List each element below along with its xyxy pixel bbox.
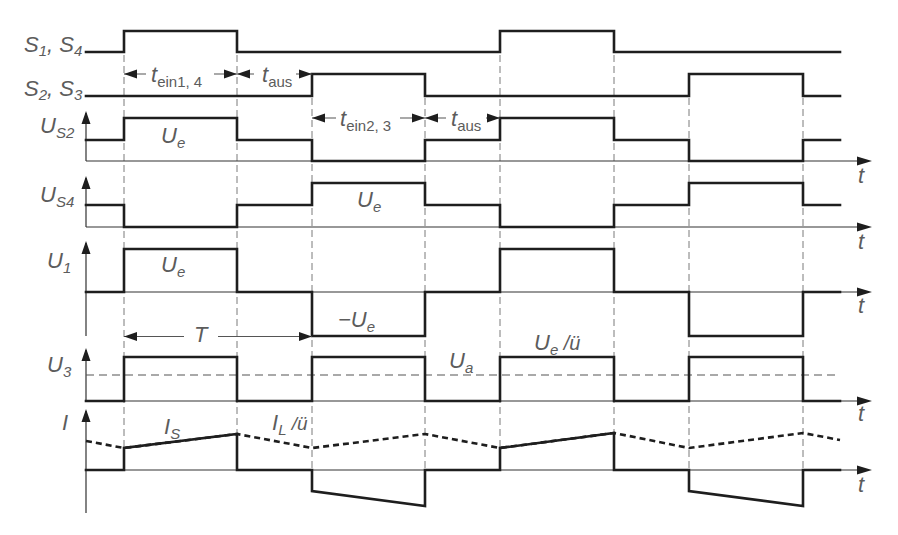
- timing-t-aus-1: taus: [262, 62, 292, 90]
- i-axis-arrow-icon: [82, 409, 873, 475]
- label-i: I: [62, 410, 68, 435]
- label-u3: U3: [47, 352, 72, 380]
- annotation-ue-u1: Ue: [161, 252, 185, 280]
- label-u1: U1: [47, 248, 71, 276]
- t-label-us2: t: [858, 163, 865, 188]
- t-label-u1: t: [858, 293, 865, 318]
- label-us2: US2: [40, 113, 75, 141]
- t-label-us4: t: [858, 229, 865, 254]
- diagram-canvas: S1, S4 S2, S3 US2 US4 U1 U3 I t t t t t …: [0, 0, 898, 535]
- annotation-ue-us2: Ue: [161, 123, 185, 151]
- timing-t-aus-2: taus: [451, 106, 481, 134]
- timing-t-ein23: tein2, 3: [340, 106, 391, 134]
- label-s1-s4: S1, S4: [24, 32, 82, 59]
- il-reflected-trace: [86, 433, 840, 448]
- label-s2-s3: S2, S3: [24, 76, 83, 103]
- annotation-minus-ue: −Ue: [338, 307, 375, 335]
- annotation-period-t: T: [194, 322, 209, 347]
- t-label-u3: t: [858, 401, 865, 426]
- us4-trace: [86, 183, 840, 227]
- annotation-ue-us4: Ue: [357, 187, 381, 215]
- timing-t-ein14: tein1, 4: [151, 62, 202, 90]
- us4-axis: [86, 178, 860, 227]
- s14-trace: [86, 31, 840, 52]
- annotation-il-ratio: IL /ü: [272, 410, 308, 438]
- t-label-i: t: [858, 472, 865, 497]
- annotation-is: IS: [164, 414, 180, 442]
- annotation-ue-ratio: Ue /ü: [534, 330, 580, 358]
- label-us4: US4: [40, 182, 74, 210]
- annotation-ua: Ua: [449, 348, 473, 376]
- timing-diagram: S1, S4 S2, S3 US2 US4 U1 U3 I t t t t t …: [0, 0, 898, 535]
